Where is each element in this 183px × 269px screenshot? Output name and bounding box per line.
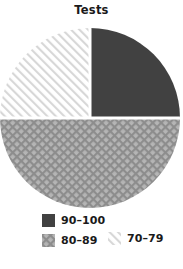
pie-chart-figure: Tests — [0, 0, 183, 269]
legend-item-70-79: 70–79 — [108, 232, 164, 245]
legend-item-90-100: 90–100 — [42, 214, 105, 227]
pie-svg — [0, 28, 180, 208]
diagonal-hatch-swatch-icon — [108, 232, 121, 245]
pie-plot-area — [0, 28, 180, 208]
solid-dark-swatch-icon — [42, 214, 55, 227]
legend-label-70-79: 70–79 — [127, 232, 164, 245]
pie-slice-80-89 — [0, 118, 180, 208]
legend-item-80-89: 80–89 — [42, 234, 98, 247]
legend-label-90-100: 90–100 — [61, 214, 105, 227]
chart-title: Tests — [0, 3, 183, 17]
crosshatch-swatch-icon — [42, 234, 55, 247]
chart-legend: 90–100 80–89 — [0, 212, 183, 267]
pie-slice-70-79 — [0, 28, 90, 118]
legend-label-80-89: 80–89 — [61, 234, 98, 247]
pie-slice-90-100 — [90, 28, 180, 118]
